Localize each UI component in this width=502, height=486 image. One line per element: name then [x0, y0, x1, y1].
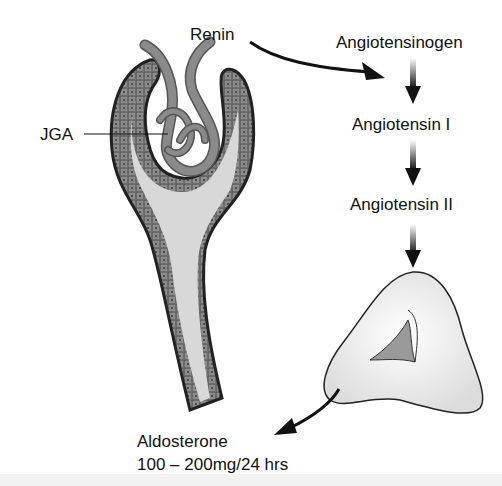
diagram-graphics — [0, 0, 502, 486]
cascade-arrow-1 — [405, 58, 421, 104]
angiotensinogen-label: Angiotensinogen — [336, 34, 463, 51]
jga-label: JGA — [40, 126, 73, 143]
raas-diagram: Renin JGA Angiotensinogen Angiotensin I … — [0, 0, 502, 486]
cascade-arrow-3 — [405, 224, 421, 268]
bottom-strip — [0, 474, 502, 486]
cascade-arrow-2 — [405, 140, 421, 186]
angiotensin-1-label: Angiotensin I — [352, 116, 450, 133]
aldosterone-label: Aldosterone — [137, 433, 228, 450]
adrenal-gland — [324, 272, 483, 413]
renin-label: Renin — [190, 26, 234, 43]
aldosterone-rate-label: 100 – 200mg/24 hrs — [137, 456, 288, 473]
angiotensin-2-label: Angiotensin II — [350, 196, 453, 213]
